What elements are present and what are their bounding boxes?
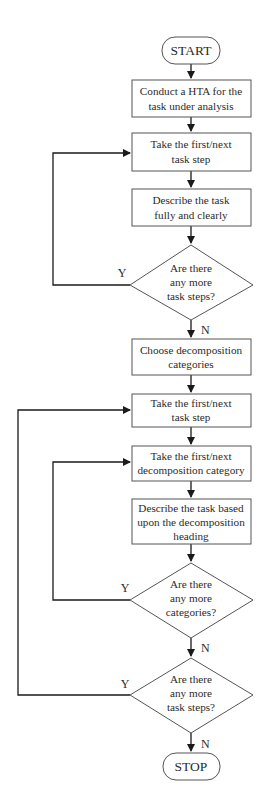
node-text-line: decomposition category bbox=[137, 464, 245, 476]
label-no-2: N bbox=[201, 641, 210, 655]
node-text-line: Are there bbox=[170, 673, 212, 685]
node-text-line: any more bbox=[170, 592, 212, 604]
label-yes-3: Y bbox=[121, 677, 130, 691]
node-text-line: Describe the task based bbox=[138, 502, 244, 514]
process-describe-by-heading: Describe the task based upon the decompo… bbox=[132, 499, 251, 544]
node-text-line: heading bbox=[173, 530, 209, 542]
node-text-line: task step bbox=[172, 411, 211, 423]
node-text-line: task steps? bbox=[167, 701, 215, 713]
node-text-line: Describe the task bbox=[152, 194, 229, 206]
node-text-line: any more bbox=[170, 276, 212, 288]
decision-more-categories: Are there any more categories? bbox=[130, 563, 253, 638]
flowchart-canvas: Y N Y N Y N START Conduct a HTA for the … bbox=[0, 0, 272, 811]
stop-label: STOP bbox=[175, 759, 208, 774]
process-take-task-step-2: Take the first/next task step bbox=[132, 394, 251, 427]
node-text-line: any more bbox=[170, 687, 212, 699]
node-text-line: Choose decomposition bbox=[140, 344, 243, 356]
start-label: START bbox=[171, 43, 213, 58]
stop-terminal: STOP bbox=[163, 753, 220, 780]
process-conduct-hta: Conduct a HTA for the task under analysi… bbox=[132, 80, 251, 117]
node-text-line: task steps? bbox=[167, 290, 215, 302]
node-text-line: upon the decomposition bbox=[137, 516, 245, 528]
node-text-line: categories? bbox=[166, 606, 216, 618]
node-text-line: task step bbox=[172, 153, 211, 165]
node-text-line: categories bbox=[168, 358, 213, 370]
node-text-line: Conduct a HTA for the bbox=[140, 85, 242, 97]
edge-decision-2-yes-loop bbox=[53, 462, 130, 600]
process-take-task-step-1: Take the first/next task step bbox=[132, 133, 251, 171]
node-text-line: Take the first/next bbox=[150, 397, 232, 409]
node-text-line: fully and clearly bbox=[154, 209, 228, 221]
label-yes-2: Y bbox=[121, 581, 130, 595]
decision-more-task-steps-1: Are there any more task steps? bbox=[130, 245, 253, 320]
start-terminal: START bbox=[162, 37, 220, 64]
label-no-1: N bbox=[201, 323, 210, 337]
node-text-line: Are there bbox=[170, 578, 212, 590]
process-choose-categories: Choose decomposition categories bbox=[132, 339, 251, 375]
process-describe-task: Describe the task fully and clearly bbox=[132, 189, 251, 226]
node-text-line: Take the first/next bbox=[150, 138, 232, 150]
node-text-line: task under analysis bbox=[148, 100, 233, 112]
process-take-category: Take the first/next decomposition catego… bbox=[132, 446, 251, 481]
node-text-line: Are there bbox=[170, 262, 212, 274]
edge-decision-3-yes-loop bbox=[18, 410, 130, 695]
label-no-3: N bbox=[201, 737, 210, 751]
label-yes-1: Y bbox=[118, 266, 127, 280]
node-text-line: Take the first/next bbox=[150, 450, 232, 462]
decision-more-task-steps-2: Are there any more task steps? bbox=[130, 658, 253, 733]
